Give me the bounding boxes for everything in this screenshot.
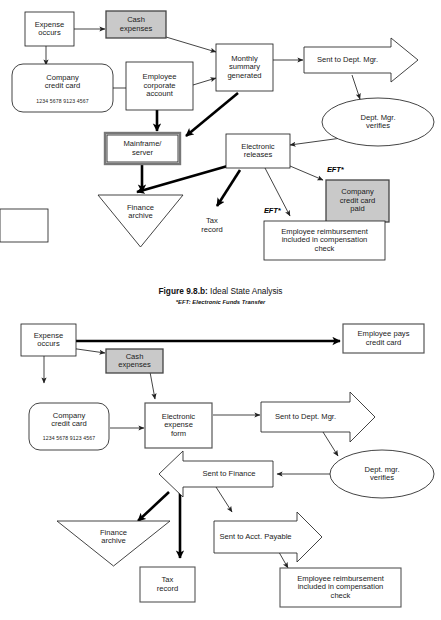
edge-summary-to-mainframe — [186, 93, 238, 136]
shape-expense-occurs-2 — [21, 324, 76, 356]
edge2-finance-to-archive — [138, 492, 169, 521]
eft-label-credit-card: EFT* — [327, 165, 344, 174]
eft-label-reimbursement: EFT* — [264, 206, 281, 215]
shape-cash-expenses — [106, 11, 166, 38]
shape-finance-archive-2 — [57, 521, 170, 566]
top-diagram-shapes — [0, 11, 434, 260]
shape-employee-reimbursement-2 — [280, 568, 401, 607]
company-credit-card-number: 1234 5678 9123 4567 — [12, 98, 113, 104]
figure-caption: Figure 9.8.b: Ideal State Analysis — [0, 286, 441, 296]
edge2-cash-to-form — [150, 372, 155, 399]
figure-caption-title: Ideal State Analysis — [210, 286, 282, 296]
shape-employee-corporate-account — [126, 62, 193, 110]
shape-sent-to-dept-mgr-2 — [261, 392, 375, 442]
bottom-diagram-shapes — [21, 324, 434, 607]
shape-employee-pays-credit-card — [343, 324, 424, 353]
shape-sent-to-acct-payable — [214, 512, 322, 562]
edge-account-to-summary — [193, 78, 216, 85]
flowchart-vector-layer — [0, 0, 441, 620]
shape-tax-record-2 — [140, 567, 195, 602]
edge-releases-to-tax — [217, 170, 240, 206]
edge-sent-to-verifies — [352, 75, 360, 99]
edge2-finance-to-acct — [216, 487, 232, 512]
figure-page: Expense occurs Cash expenses Company cre… — [0, 0, 441, 620]
shape-expense-occurs — [25, 12, 74, 46]
shape-dept-mgr-verifies — [322, 98, 434, 146]
shape-electronic-expense-form — [145, 403, 212, 448]
shape-finance-archive — [98, 195, 183, 247]
shape-sent-to-finance — [159, 451, 273, 497]
shape-employee-reimbursement — [264, 221, 385, 260]
shape-company-credit-card — [12, 64, 113, 112]
figure-footnote: *EFT: Electronic Funds Transfer — [0, 299, 441, 305]
shape-tax-record — [0, 209, 48, 242]
edge-cash-to-summary — [166, 37, 216, 52]
shape-company-credit-card-paid — [326, 180, 389, 222]
shape-monthly-summary-generated — [216, 44, 273, 91]
shape-dept-mgr-verifies-2 — [330, 450, 434, 498]
shape-company-credit-card-2 — [29, 403, 109, 450]
edge2-sent-to-verifies — [323, 432, 338, 456]
shape-cash-expenses-2 — [106, 349, 163, 373]
shape-sent-to-dept-mgr — [304, 38, 418, 82]
shape-mainframe-server-inner — [107, 135, 178, 162]
company-credit-card-number-2: 1234 5678 9123 4567 — [29, 435, 109, 441]
shape-electronic-releases — [226, 134, 290, 168]
edge-releases-to-cardpaid — [290, 166, 323, 180]
figure-caption-label: Figure 9.8.b: — [158, 286, 207, 296]
